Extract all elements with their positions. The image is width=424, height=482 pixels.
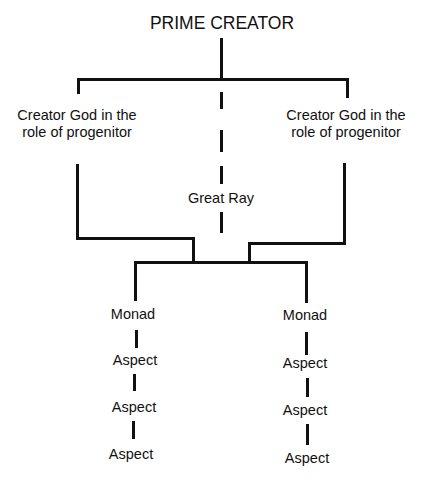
ray-dash: [220, 212, 223, 233]
connector-line: [305, 261, 308, 303]
connector-line: [346, 78, 349, 98]
great-ray-label: Great Ray: [188, 190, 254, 207]
left-aspect-2-label: Aspect: [112, 399, 156, 416]
right-aspect-2-label: Aspect: [283, 402, 327, 419]
connector-line: [134, 261, 137, 301]
connector-line: [305, 332, 308, 355]
right-progenitor-line1: Creator God in the: [286, 107, 405, 124]
right-monad-label: Monad: [283, 307, 327, 324]
ray-dash: [220, 166, 223, 184]
right-aspect-1-label: Aspect: [283, 355, 327, 372]
connector-line: [306, 424, 309, 445]
connector-line: [132, 421, 135, 439]
left-progenitor-label: Creator God in the role of progenitor: [17, 107, 136, 142]
connector-line: [343, 163, 346, 245]
ray-dash: [220, 130, 223, 152]
connector-line: [135, 330, 138, 348]
connector-line: [192, 237, 195, 264]
connector-line: [134, 261, 308, 264]
prime-creator-label: PRIME CREATOR: [150, 13, 294, 34]
connector-line: [77, 78, 349, 81]
connector-line: [76, 237, 194, 240]
connector-line: [220, 38, 223, 80]
connector-line: [77, 78, 80, 94]
right-aspect-3-label: Aspect: [285, 450, 329, 467]
connector-line: [306, 378, 309, 397]
connector-line: [133, 374, 136, 391]
left-aspect-3-label: Aspect: [109, 446, 153, 463]
left-progenitor-line2: role of progenitor: [17, 124, 136, 141]
left-aspect-1-label: Aspect: [113, 352, 157, 369]
right-progenitor-line2: role of progenitor: [286, 124, 405, 141]
right-progenitor-label: Creator God in the role of progenitor: [286, 107, 405, 142]
hierarchy-diagram: PRIME CREATOR Creator God in the role of…: [0, 0, 424, 482]
connector-line: [248, 242, 346, 245]
left-progenitor-line1: Creator God in the: [17, 107, 136, 124]
connector-line: [76, 164, 79, 240]
ray-dash: [220, 92, 223, 109]
left-monad-label: Monad: [111, 306, 155, 323]
